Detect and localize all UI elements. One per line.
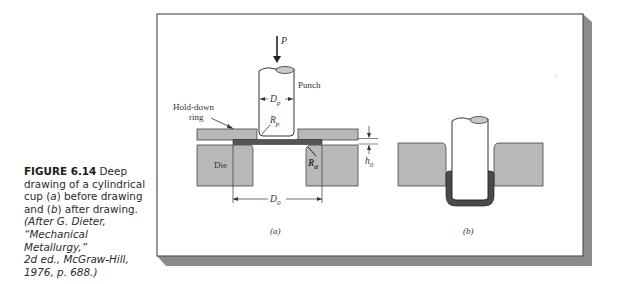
load-label: P <box>280 35 287 46</box>
punch-top-ellipse <box>276 67 294 74</box>
panel-b-label: (b) <box>463 226 474 236</box>
punch-b <box>452 118 488 200</box>
figure-diagram: P Punch Dp Hold-down ring Rp Die Rd <box>0 0 620 284</box>
die-left-b <box>398 143 446 186</box>
punch-label: Punch <box>298 80 321 90</box>
die-label: Die <box>214 160 227 170</box>
hold-down-ring-right <box>298 129 358 140</box>
hold-down-ring-left <box>197 129 257 140</box>
panel-a-label: (a) <box>270 226 281 236</box>
blank-sheet <box>233 140 322 145</box>
punch-top-ellipse-b <box>470 117 488 124</box>
hold-down-ring-label: Hold-down <box>173 102 214 112</box>
die-right-b <box>494 143 543 186</box>
hold-down-ring-label-2: ring <box>189 112 204 122</box>
